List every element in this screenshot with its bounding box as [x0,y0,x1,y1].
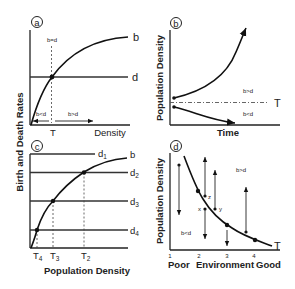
panel-b-b-greater-d: b>d [243,88,253,94]
panel-d-x-point-label: x [198,206,201,212]
panel-a-b-label: b [133,31,139,43]
population-regulation-figure: a b=d b d b<d b>d T Density Birth and De… [0,0,295,289]
panel-b-b-less-d: b<d [243,111,253,117]
panel-d-threshold-label: T [274,240,281,252]
panel-c-point-T3 [51,199,55,203]
panel-b-y-label: Population Density [154,34,165,121]
panel-d-z-label: z [208,194,211,200]
panel-c: c d1 b d2 d3 d4 T4 T3 T2 Population Dens… [30,141,139,277]
panel-a-x-label: Density [94,127,126,138]
panel-b-growth-curve [174,28,246,98]
panel-c-T3-label: T3 [50,250,60,262]
panel-b-x-label: Time [217,127,239,138]
panel-b-decline-curve [174,107,235,123]
panel-d-x-label-good: Good [256,259,281,270]
panel-b-label: b [173,18,178,29]
panel-c-d4-label: d4 [130,225,139,237]
panel-d-x-label-poor: Poor [168,259,190,270]
shared-y-axis-label: Birth and Death Rates [14,92,25,191]
panel-a-b-less-d: b<d [36,111,46,117]
panel-c-d2-label: d2 [130,167,139,179]
panel-d-threshold-curve [184,156,272,246]
panel-a-d-label: d [132,71,138,83]
panel-d-curve-point-3 [225,223,229,227]
panel-a-b-greater-d: b>d [68,111,78,117]
panel-a-equilibrium-point [50,75,55,80]
panel-d-curve-point-4 [253,238,257,242]
panel-d-label: d [173,141,178,152]
panel-b-decline-start-point [172,105,176,109]
panel-a-label: a [34,17,40,28]
panel-c-d3-label: d3 [130,196,139,208]
panel-b-threshold-label: T [274,97,281,109]
panel-c-d1-label: d1 [98,148,107,160]
panel-c-x-label: Population Density [44,265,131,276]
panel-a-b-equals-d: b=d [47,37,57,43]
panel-c-T4-label: T4 [33,250,43,262]
panel-c-point-T4 [35,228,39,232]
panel-d-x-label-environment: Environment [196,259,255,270]
panel-d-y-label: Population Density [154,157,165,244]
panel-a-threshold-label: T [50,127,56,138]
panel-a: a b=d b d b<d b>d T Density [30,17,139,139]
panel-d-b-greater-d: b>d [236,167,246,173]
panel-b-growth-start-point [172,96,176,100]
panel-b: b b>d b<d T Time Population Density [154,18,281,139]
panel-c-T2-label: T2 [81,250,91,262]
panel-d-y-point-label: y [219,206,222,212]
panel-c-label: c [35,141,40,152]
panel-d-curve-point-2 [196,189,200,193]
panel-c-point-T2 [82,170,86,174]
panel-c-birth-rate-curve [31,158,127,248]
panel-c-b-label: b [130,149,135,160]
panel-d-b-less-d: b<d [181,230,191,236]
panel-d: d z x y b>d b<d T 1 2 3 4 Poo [154,141,281,271]
